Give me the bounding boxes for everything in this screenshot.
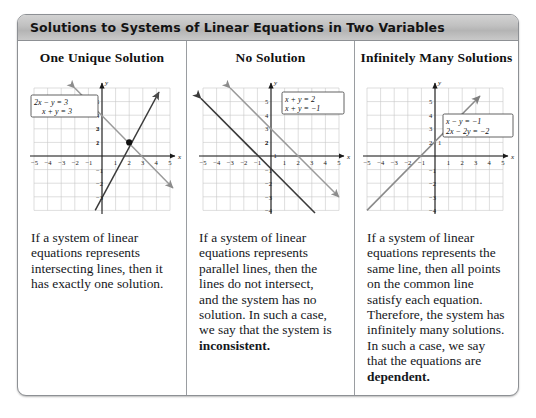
- svg-text:−3: −3: [58, 159, 66, 166]
- svg-text:1: 1: [114, 159, 117, 166]
- svg-text:−1: −1: [96, 167, 103, 174]
- svg-text:−2: −2: [265, 180, 272, 187]
- svg-text:−2: −2: [96, 180, 103, 187]
- svg-text:−4: −4: [429, 207, 437, 214]
- svg-text:−5: −5: [31, 159, 39, 166]
- body-line: In such a case, we say: [367, 338, 508, 353]
- svg-text:2: 2: [127, 159, 130, 166]
- tick-label-y2: 2: [96, 125, 99, 132]
- coordinate-plane-2: x y −5−4 −3−2 −1 123 45 543: [187, 70, 355, 216]
- tick-label-y2: 2: [265, 139, 268, 146]
- svg-text:4: 4: [324, 159, 328, 166]
- svg-text:−4: −4: [213, 159, 221, 166]
- body-line: and the system has no: [199, 292, 344, 307]
- column-heading-2: No Solution: [187, 41, 354, 66]
- body-line: If a system of linear: [199, 230, 344, 245]
- line-2x-minus-y-equals-3: [95, 92, 159, 210]
- svg-text:1: 1: [283, 159, 286, 166]
- body-emphasis: dependent.: [367, 369, 430, 384]
- equation-2b: x + y = −1: [284, 104, 320, 113]
- svg-text:−4: −4: [265, 207, 273, 214]
- graph-one-unique-solution: x y −5−4 −3−2 −1 123 45: [18, 70, 186, 216]
- svg-text:−3: −3: [227, 159, 235, 166]
- column-heading-1: One Unique Solution: [18, 41, 186, 66]
- svg-text:−4: −4: [377, 159, 385, 166]
- body-line: solution. In such a case,: [199, 307, 344, 322]
- body-line: Therefore, the system has: [367, 307, 508, 322]
- equation-box-2: x + y = 2 x + y = −1: [282, 92, 344, 114]
- svg-text:−1: −1: [429, 167, 436, 174]
- column-body-2: If a system of linear equations represen…: [187, 216, 354, 353]
- equation-1b: x + y = 3: [41, 107, 72, 116]
- body-line: If a system of linear: [367, 230, 508, 245]
- svg-text:−1: −1: [265, 167, 272, 174]
- body-line: satisfy each equation.: [367, 292, 508, 307]
- svg-text:−3: −3: [265, 194, 273, 201]
- equation-3a: x − y = −1: [445, 117, 481, 126]
- svg-text:−2: −2: [429, 180, 436, 187]
- svg-text:−5: −5: [364, 159, 372, 166]
- column-body-1: If a system of linear equations represen…: [18, 216, 186, 292]
- svg-text:3: 3: [474, 159, 478, 166]
- y-axis-label: y: [273, 79, 278, 87]
- body-line: lines do not intersect,: [199, 276, 344, 291]
- svg-text:−2: −2: [404, 159, 411, 166]
- svg-text:3: 3: [310, 159, 314, 166]
- body-line: that the equations are: [367, 353, 508, 368]
- coordinate-plane-1: x y −5−4 −3−2 −1 123 45: [18, 70, 186, 216]
- body-line: parallel lines, then the: [199, 261, 344, 276]
- svg-text:−3: −3: [96, 194, 104, 201]
- body-line: on the common line: [367, 276, 508, 291]
- tick-label-y1: 1: [274, 152, 277, 159]
- body-emphasis: inconsistent.: [199, 338, 270, 353]
- svg-text:−3: −3: [429, 194, 437, 201]
- equation-2a: x + y = 2: [284, 95, 315, 104]
- solutions-table-card: Solutions to Systems of Linear Equations…: [17, 14, 519, 396]
- body-line: equations represents: [199, 245, 344, 260]
- equation-box-1: 2x − y = 3 x + y = 3: [31, 95, 98, 117]
- line-common-x-minus-y-equals-minus1: [367, 96, 480, 210]
- svg-text:−2: −2: [72, 159, 79, 166]
- body-line: has exactly one solution.: [31, 276, 176, 291]
- body-line: intersecting lines, then it: [31, 261, 176, 276]
- svg-text:5: 5: [168, 159, 172, 166]
- svg-text:5: 5: [337, 159, 341, 166]
- svg-text:3: 3: [141, 159, 145, 166]
- tick-label-y1: 1: [438, 139, 441, 146]
- columns-container: One Unique Solution: [18, 41, 518, 396]
- body-line: equations represents the: [367, 245, 508, 260]
- svg-text:−2: −2: [240, 159, 247, 166]
- equation-box-3: x − y = −1 2x − 2y = −2: [443, 114, 513, 137]
- body-line: If a system of linear: [31, 230, 176, 245]
- svg-text:4: 4: [488, 159, 492, 166]
- svg-text:4: 4: [155, 159, 159, 166]
- svg-text:−1: −1: [85, 159, 92, 166]
- coordinate-plane-3: x y −5−4 −3−2 −1 123 45 543 2 −1−2: [355, 70, 519, 216]
- svg-text:−3: −3: [391, 159, 399, 166]
- equation-3b: 2x − 2y = −2: [446, 127, 489, 136]
- svg-text:−1: −1: [254, 159, 261, 166]
- column-one-unique-solution: One Unique Solution: [18, 41, 186, 396]
- svg-text:2: 2: [460, 159, 463, 166]
- page-title: Solutions to Systems of Linear Equations…: [18, 20, 445, 35]
- table-title-bar: Solutions to Systems of Linear Equations…: [18, 15, 518, 41]
- intersection-point: [126, 139, 132, 145]
- svg-text:−5: −5: [200, 159, 208, 166]
- figure-root: Solutions to Systems of Linear Equations…: [0, 0, 536, 418]
- tick-label-y1: 1: [96, 139, 99, 146]
- equation-1a: 2x − y = 3: [34, 98, 68, 107]
- body-line: infinitely many solutions.: [367, 322, 508, 337]
- body-line: equations represents: [31, 245, 176, 260]
- column-body-3: If a system of linear equations represen…: [355, 216, 518, 384]
- svg-text:1: 1: [447, 159, 450, 166]
- column-heading-3: Infinitely Many Solutions: [355, 41, 518, 66]
- graph-infinitely-many-solutions: x y −5−4 −3−2 −1 123 45 543 2 −1−2: [355, 70, 518, 216]
- graph-no-solution: x y −5−4 −3−2 −1 123 45 543: [187, 70, 354, 216]
- x-axis-label: x: [510, 153, 515, 161]
- svg-text:2: 2: [296, 159, 299, 166]
- body-line: we say that the system is: [199, 322, 344, 337]
- y-axis-label: y: [437, 79, 442, 87]
- body-line: same line, then all points: [367, 261, 508, 276]
- column-infinitely-many-solutions: Infinitely Many Solutions: [354, 41, 518, 396]
- y-axis-label: y: [104, 79, 109, 87]
